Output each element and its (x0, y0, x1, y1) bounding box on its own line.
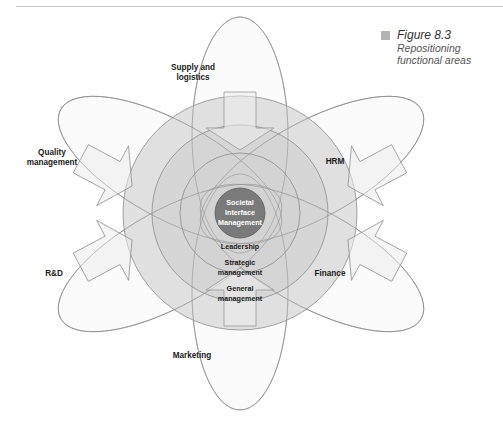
core-label-line-3: Management (218, 218, 263, 227)
layer-strategic-line-2: management (218, 268, 263, 277)
label-supply-line-1: Supply and (171, 63, 215, 72)
layer-leadership: Leadership (221, 242, 260, 251)
label-supply-line-2: logistics (176, 73, 210, 82)
core-label-line-1: Societal (226, 198, 254, 207)
label-marketing: Marketing (173, 351, 212, 360)
label-finance: Finance (315, 269, 346, 278)
layer-general-line-2: management (218, 294, 263, 303)
label-hrm: HRM (326, 157, 345, 166)
layer-strategic-line-1: Strategic (225, 258, 256, 267)
label-quality-line-2: management (27, 158, 78, 167)
repositioning-diagram: Societal Interface Management Leadership… (0, 0, 503, 426)
label-rnd: R&D (45, 269, 63, 278)
layer-general-line-1: General (227, 284, 254, 293)
core-label-line-2: Interface (225, 208, 255, 217)
label-quality-line-1: Quality (38, 148, 66, 157)
